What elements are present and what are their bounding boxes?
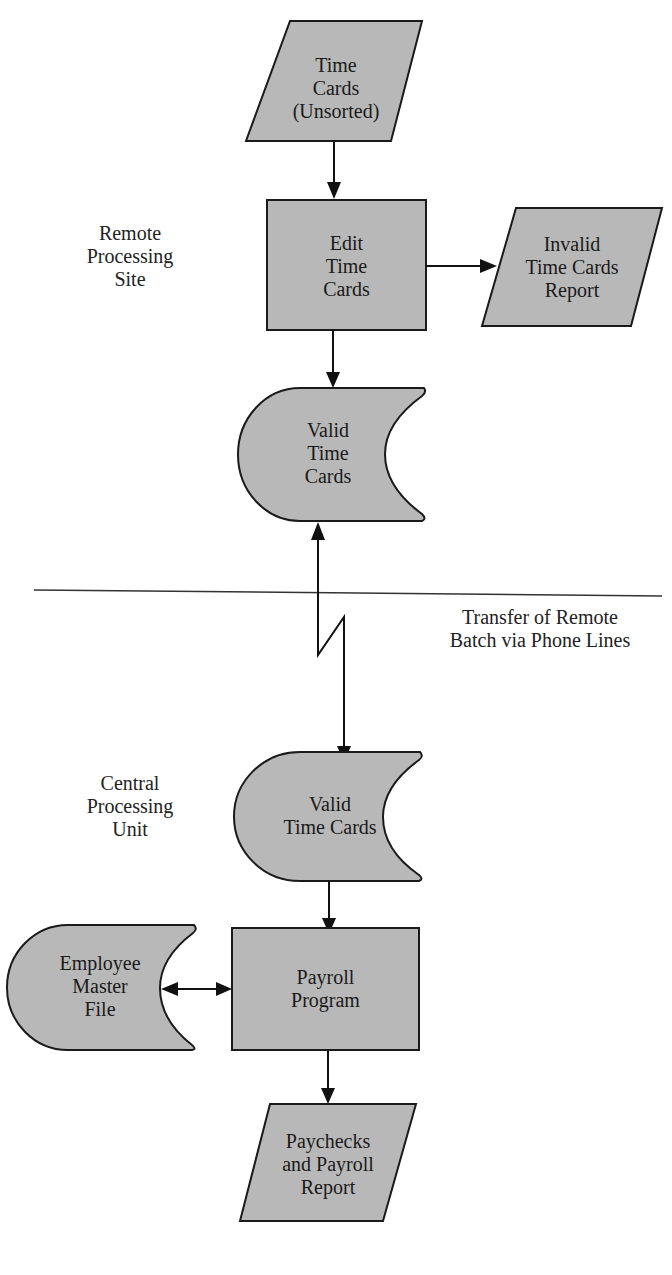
- valid-time-cards-central-label: Valid Time Cards: [265, 793, 395, 839]
- region-label-central: Central Processing Unit: [60, 772, 200, 841]
- edit-time-cards-label: Edit Time Cards: [267, 232, 426, 301]
- arrowhead-down-icon: [321, 1088, 335, 1104]
- region-label-remote: Remote Processing Site: [60, 222, 200, 291]
- invalid-report-label: Invalid Time Cards Report: [497, 233, 647, 302]
- arrowhead-down-icon: [326, 372, 340, 388]
- paychecks-report-label: Paychecks and Payroll Report: [258, 1130, 398, 1199]
- communication-link-phone-lines: [318, 537, 344, 748]
- arrowhead-right-icon: [480, 259, 497, 273]
- arrowhead-down-icon: [327, 182, 341, 199]
- arrowhead-right-icon: [216, 982, 232, 996]
- payroll-program-label: Payroll Program: [232, 966, 419, 1012]
- region-divider: [34, 590, 662, 596]
- valid-time-cards-remote-label: Valid Time Cards: [278, 419, 378, 488]
- employee-master-file-label: Employee Master File: [40, 952, 160, 1021]
- transfer-label: Transfer of Remote Batch via Phone Lines: [420, 606, 660, 652]
- arrowhead-up-icon: [311, 522, 325, 540]
- time-cards-unsorted-label: Time Cards (Unsorted): [271, 54, 401, 123]
- arrowhead-left-icon: [161, 982, 178, 996]
